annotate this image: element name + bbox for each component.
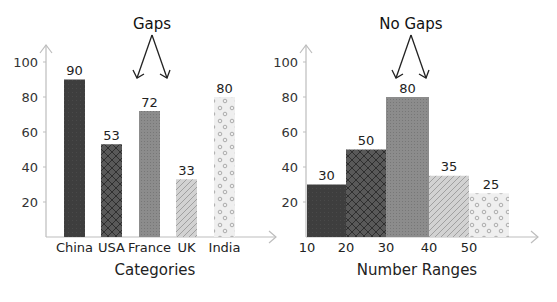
left-chart: Gaps 20 40 60 80 100 90 53 [13, 15, 276, 279]
y-tick-label: 20 [21, 195, 38, 210]
bar-india [214, 97, 235, 237]
x-tick-label: 40 [421, 240, 438, 255]
bar-france [139, 111, 160, 237]
bin-40-50 [429, 176, 469, 237]
category-label: China [56, 240, 93, 255]
category-label: USA [98, 240, 125, 255]
right-chart: No Gaps 20 40 60 80 100 30 50 [273, 15, 538, 279]
category-label: France [128, 240, 171, 255]
x-tick-label: 10 [299, 240, 316, 255]
x-axis-title: Number Ranges [357, 261, 478, 279]
gaps-annotation: Gaps [133, 15, 171, 33]
y-tick-label: 40 [281, 160, 298, 175]
bin-10-20 [307, 185, 346, 238]
charts-canvas: Gaps 20 40 60 80 100 90 53 [0, 0, 557, 302]
y-tick-label: 100 [273, 55, 298, 70]
bar-value-label: 80 [216, 81, 233, 96]
y-tick-label: 100 [13, 55, 38, 70]
x-axis-title: Categories [115, 261, 196, 279]
bin-20-30 [346, 150, 386, 238]
y-tick-label: 20 [281, 195, 298, 210]
y-tick-label: 80 [281, 90, 298, 105]
category-label: UK [177, 240, 196, 255]
y-tick-label: 60 [21, 125, 38, 140]
y-tick-label: 80 [21, 90, 38, 105]
bar-value-label: 90 [66, 63, 83, 78]
no-gaps-arrow-icon [392, 35, 429, 78]
bar-value-label: 80 [399, 81, 416, 96]
left-y-axis [40, 45, 52, 237]
bar-value-label: 33 [178, 163, 195, 178]
x-tick-label: 50 [461, 240, 478, 255]
bar-value-label: 53 [103, 128, 120, 143]
bar-value-label: 72 [141, 95, 158, 110]
bar-value-label: 30 [318, 168, 335, 183]
bar-usa [101, 144, 122, 237]
y-tick-label: 60 [281, 125, 298, 140]
bin-50-60 [469, 193, 509, 237]
bar-value-label: 50 [358, 133, 375, 148]
y-tick-label: 40 [21, 160, 38, 175]
bar-value-label: 35 [441, 159, 458, 174]
bar-value-label: 25 [483, 177, 500, 192]
no-gaps-annotation: No Gaps [379, 15, 443, 33]
gaps-arrow-icon [133, 35, 170, 78]
x-tick-label: 20 [338, 240, 355, 255]
category-label: India [209, 240, 241, 255]
bar-uk [176, 179, 197, 237]
bin-30-40 [386, 97, 429, 237]
bar-china [64, 80, 85, 238]
x-tick-label: 30 [378, 240, 395, 255]
